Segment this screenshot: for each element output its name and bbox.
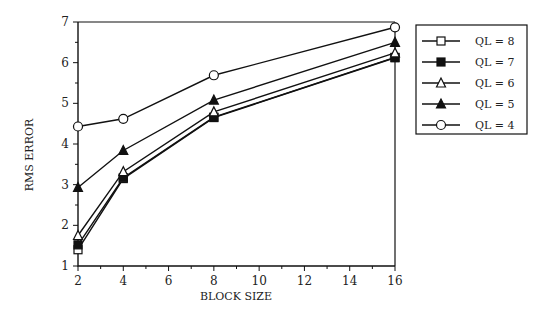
x-tick-label: 8 bbox=[210, 274, 218, 288]
line-chart: 1234567246810121416 QL = 8QL = 7QL = 6QL… bbox=[0, 0, 541, 326]
open-triangle-marker bbox=[119, 167, 128, 176]
filled-square-marker bbox=[74, 241, 82, 249]
y-tick-label: 6 bbox=[61, 56, 69, 70]
filled-square-icon bbox=[437, 58, 445, 66]
legend-label: QL = 5 bbox=[475, 98, 515, 111]
legend: QL = 8QL = 7QL = 6QL = 5QL = 4 bbox=[416, 25, 527, 134]
series-group bbox=[74, 23, 400, 254]
series-ql6 bbox=[78, 53, 395, 236]
x-axis-label: BLOCK SIZE bbox=[200, 290, 272, 303]
open-circle-icon bbox=[437, 121, 446, 130]
open-circle-marker bbox=[209, 71, 218, 80]
y-tick-label: 7 bbox=[61, 15, 69, 29]
y-axis-label: RMS ERROR bbox=[23, 118, 36, 191]
legend-label: QL = 4 bbox=[475, 119, 515, 132]
legend-label: QL = 6 bbox=[475, 77, 515, 90]
series-line bbox=[78, 27, 395, 126]
series-markers bbox=[74, 48, 400, 240]
legend-label: QL = 7 bbox=[475, 56, 515, 69]
series-ql4 bbox=[78, 27, 395, 126]
x-tick-label: 4 bbox=[119, 274, 127, 288]
y-tick-label: 1 bbox=[61, 259, 69, 273]
legend-label: QL = 8 bbox=[475, 35, 515, 48]
open-square-icon bbox=[437, 37, 445, 45]
x-tick-label: 10 bbox=[252, 274, 267, 288]
y-tick-label: 2 bbox=[61, 218, 69, 232]
open-circle-marker bbox=[74, 122, 83, 131]
x-tick-label: 12 bbox=[297, 274, 312, 288]
filled-triangle-marker bbox=[391, 37, 400, 46]
series-line bbox=[78, 53, 395, 236]
open-circle-marker bbox=[391, 23, 400, 32]
y-tick-label: 3 bbox=[61, 178, 69, 192]
axis-lines bbox=[78, 22, 395, 266]
x-tick-label: 2 bbox=[74, 274, 82, 288]
open-circle-marker bbox=[119, 114, 128, 123]
y-tick-label: 4 bbox=[61, 137, 69, 151]
x-tick-label: 6 bbox=[165, 274, 173, 288]
filled-triangle-marker bbox=[119, 146, 128, 155]
x-tick-label: 14 bbox=[342, 274, 358, 288]
y-tick-label: 5 bbox=[61, 96, 69, 110]
open-triangle-marker bbox=[391, 48, 400, 57]
filled-triangle-marker bbox=[74, 183, 83, 192]
x-tick-label: 16 bbox=[387, 274, 402, 288]
